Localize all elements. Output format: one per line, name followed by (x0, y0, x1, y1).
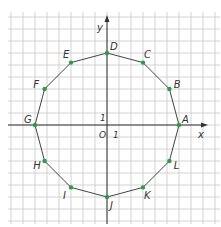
dodecagon-diagram: x y O 1 1 ABCDEFGHIJKL (0, 0, 221, 227)
vertex-label-l: L (174, 160, 180, 171)
origin-label: O (99, 130, 106, 140)
vertex-label-c: C (144, 49, 151, 60)
vertex-point-a (177, 123, 181, 127)
y-axis-arrow-icon (105, 15, 110, 22)
unit-y-label: 1 (100, 113, 106, 123)
vertex-label-e: E (63, 49, 70, 60)
vertex-point-l (167, 159, 171, 163)
coordinate-plane: x y O 1 1 ABCDEFGHIJKL (0, 0, 221, 227)
vertex-label-i: I (63, 190, 66, 201)
vertex-label-d: D (110, 41, 118, 52)
vertex-label-k: K (144, 190, 152, 201)
vertex-point-j (105, 195, 109, 199)
vertex-label-a: A (181, 114, 189, 125)
vertex-label-h: H (33, 160, 41, 171)
vertex-point-g (33, 123, 37, 127)
vertex-point-h (42, 159, 46, 163)
x-axis-arrow-icon (201, 123, 208, 128)
vertex-label-b: B (174, 79, 181, 90)
y-axis-label: y (96, 22, 104, 33)
vertex-point-i (69, 185, 73, 189)
vertex-point-d (105, 51, 109, 55)
vertex-label-f: F (33, 79, 39, 90)
vertex-label-g: G (24, 114, 32, 125)
vertex-point-e (69, 60, 73, 64)
vertex-point-c (141, 60, 145, 64)
vertex-point-b (167, 87, 171, 91)
unit-x-label: 1 (113, 130, 119, 140)
vertex-point-f (42, 87, 46, 91)
x-axis-label: x (197, 129, 204, 140)
